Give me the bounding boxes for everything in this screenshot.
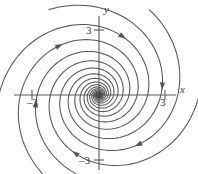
y-tick-negative-digit: 3 bbox=[85, 154, 91, 166]
trajectory-curve bbox=[49, 5, 162, 138]
equilibrium-point-marker bbox=[96, 92, 102, 98]
y-axis-label: y bbox=[104, 4, 109, 15]
y-tick-label-positive-3: 3 bbox=[86, 25, 92, 36]
x-tick-label-negative-3: –3 bbox=[27, 97, 38, 108]
phase-portrait-figure: y x 3 –3 –3 3 bbox=[0, 0, 198, 174]
phase-portrait-plot bbox=[0, 0, 198, 174]
flow-arrowhead bbox=[159, 82, 165, 90]
trajectory-curve bbox=[36, 51, 149, 174]
flow-arrowhead bbox=[55, 42, 64, 50]
x-tick-label-positive-3: 3 bbox=[160, 97, 166, 108]
y-tick-label-negative-3: –3 bbox=[79, 155, 90, 166]
x-axis-label: x bbox=[180, 84, 185, 95]
x-tick-negative-digit: 3 bbox=[33, 96, 39, 108]
flow-arrowhead bbox=[118, 32, 127, 41]
flow-arrowhead bbox=[134, 141, 143, 149]
